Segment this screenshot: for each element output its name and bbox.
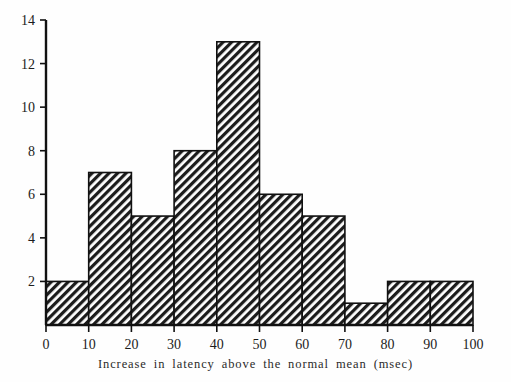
- histogram-bar: [89, 173, 132, 326]
- histogram-bar: [388, 281, 431, 325]
- y-tick-label: 12: [21, 57, 35, 72]
- histogram-bar: [174, 151, 217, 325]
- x-tick-label: 60: [295, 337, 309, 352]
- x-axis-caption: Increase in latency above the normal mea…: [0, 357, 511, 372]
- y-tick-label: 6: [28, 187, 35, 202]
- histogram-figure: 2468101214 0102030405060708090100 Increa…: [0, 0, 511, 382]
- x-tick-label: 40: [210, 337, 224, 352]
- histogram-bar: [430, 281, 473, 325]
- x-tick-label: 0: [43, 337, 50, 352]
- x-axis-ticks: 0102030405060708090100: [43, 325, 484, 352]
- histogram-plot: 2468101214 0102030405060708090100: [0, 0, 511, 382]
- bar-series: [46, 42, 473, 325]
- histogram-bar: [302, 216, 345, 325]
- x-tick-label: 10: [82, 337, 96, 352]
- y-tick-label: 4: [28, 231, 35, 246]
- histogram-bar: [345, 303, 388, 325]
- x-tick-label: 30: [167, 337, 181, 352]
- histogram-bar: [260, 194, 303, 325]
- y-tick-label: 14: [21, 13, 35, 28]
- histogram-bar: [131, 216, 174, 325]
- x-tick-label: 20: [124, 337, 138, 352]
- x-tick-label: 100: [463, 337, 484, 352]
- y-tick-label: 8: [28, 144, 35, 159]
- x-tick-label: 90: [423, 337, 437, 352]
- y-tick-label: 10: [21, 100, 35, 115]
- histogram-bar: [217, 42, 260, 325]
- x-tick-label: 50: [253, 337, 267, 352]
- y-axis-ticks: 2468101214: [21, 13, 46, 289]
- x-tick-label: 70: [338, 337, 352, 352]
- y-tick-label: 2: [28, 274, 35, 289]
- x-tick-label: 80: [381, 337, 395, 352]
- histogram-bar: [46, 281, 89, 325]
